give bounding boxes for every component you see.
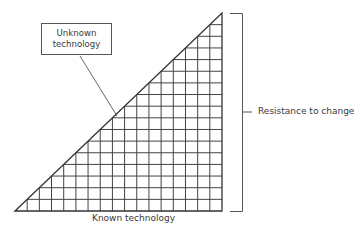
bracket [230,14,252,212]
resistance-to-change-label: Resistance to change [258,106,354,117]
known-technology-label: Known technology [92,213,175,224]
unknown-technology-callout: Unknown technology [41,23,112,55]
callout-line-1: Unknown [57,28,97,39]
callout-leader-line [80,56,117,116]
callout-line-2: technology [53,39,101,50]
